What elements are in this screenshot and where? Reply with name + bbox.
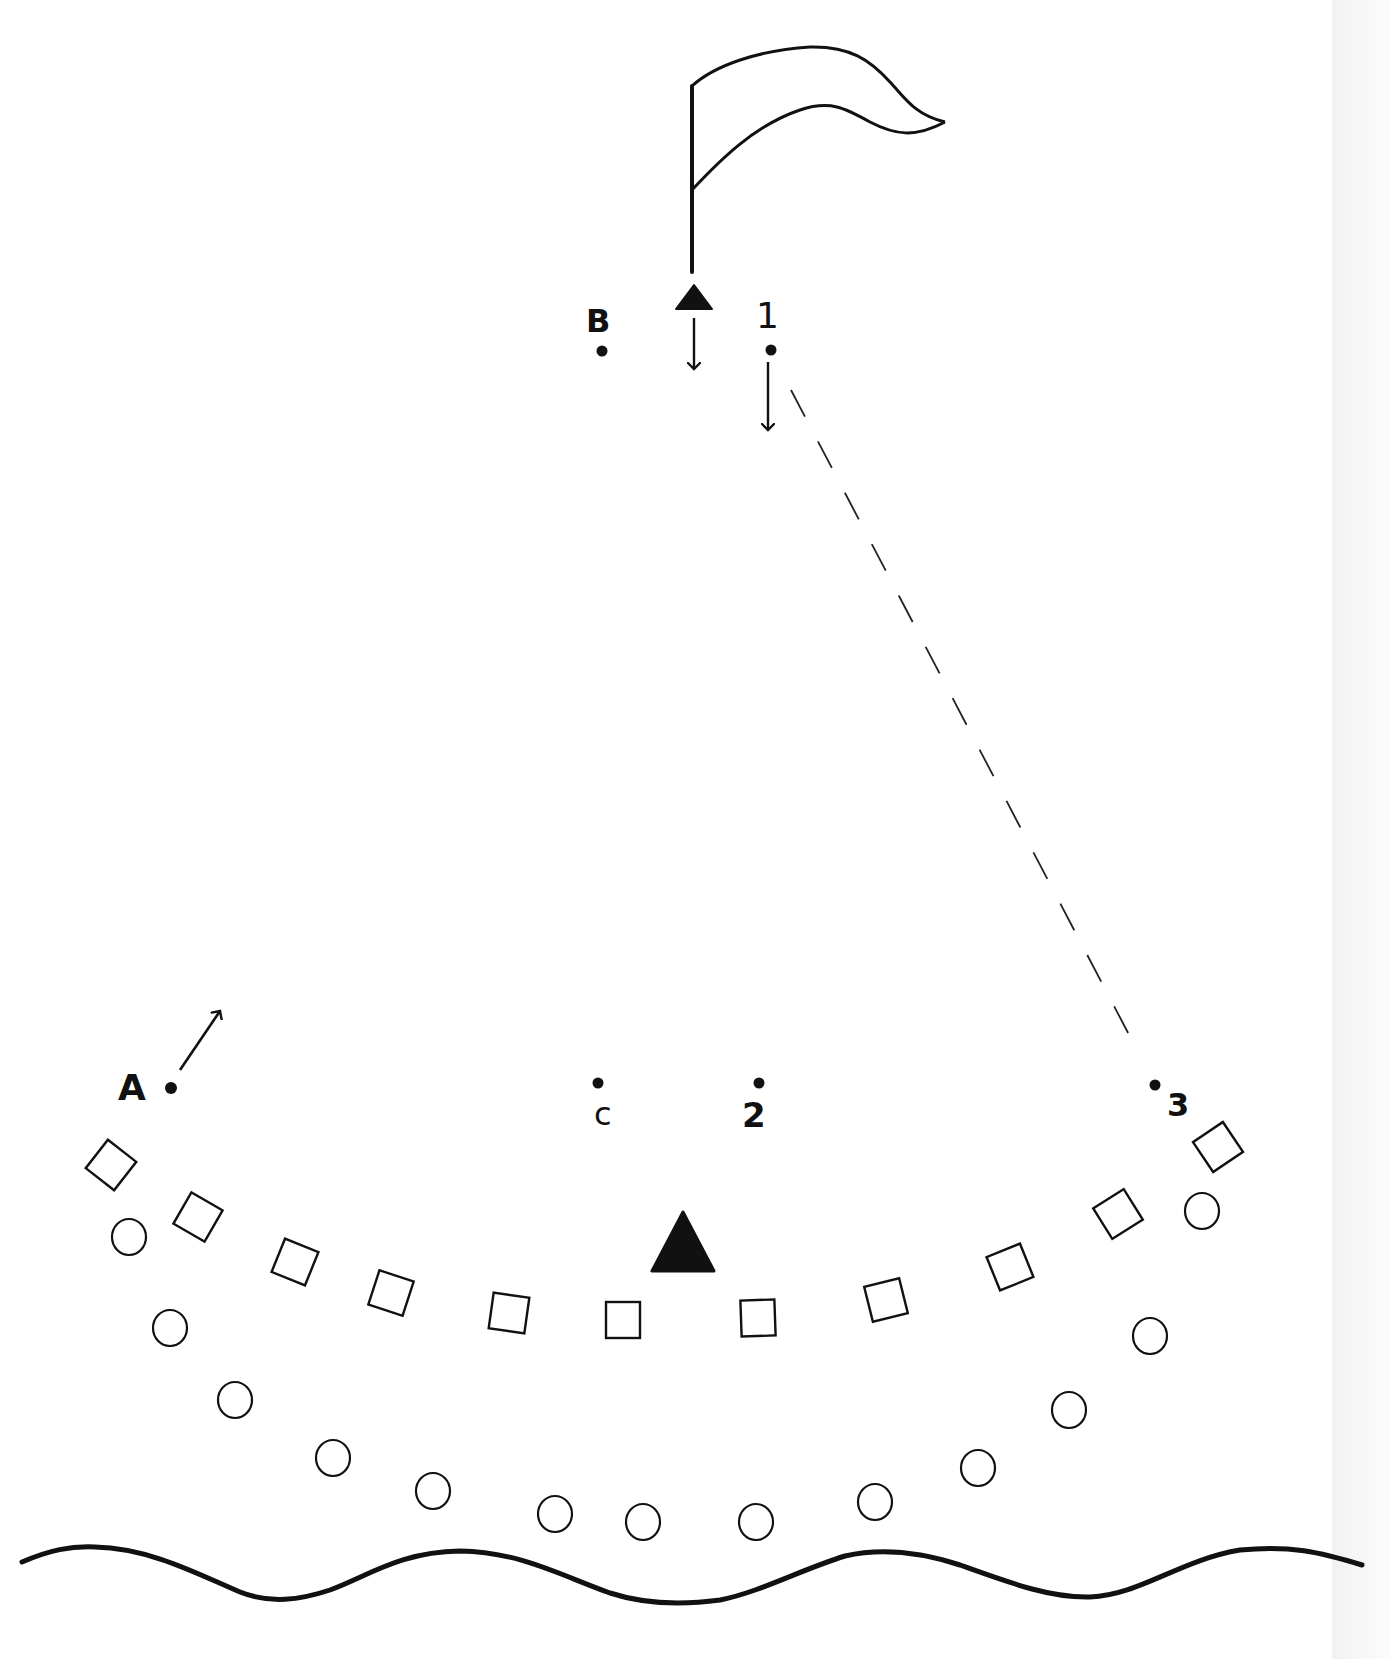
pass-path-dashed [791, 390, 1136, 1048]
square-marker [1093, 1189, 1143, 1239]
circle-marker [538, 1496, 572, 1532]
player-dot-3 [1150, 1080, 1161, 1091]
circle-marker [626, 1504, 660, 1540]
drill-diagram: B 1 A C 2 3 [0, 0, 1390, 1659]
wavy-boundary-line [22, 1547, 1362, 1603]
top-cone-icon [676, 285, 712, 309]
label-1: 1 [756, 295, 779, 336]
player-dot-B [597, 346, 608, 357]
square-marker [173, 1192, 222, 1241]
player-dot-A [165, 1082, 177, 1094]
square-marker [864, 1278, 908, 1322]
square-marker [272, 1239, 319, 1286]
square-marker [987, 1244, 1034, 1291]
label-B: B [586, 302, 610, 340]
circle-marker [1185, 1193, 1219, 1229]
square-marker [1193, 1122, 1243, 1172]
circle-marker [218, 1382, 252, 1418]
square-markers [86, 1122, 1243, 1338]
square-marker [86, 1140, 137, 1191]
center-cone-icon [652, 1212, 714, 1271]
playerA-run-arrow [180, 1011, 220, 1070]
square-marker [740, 1299, 775, 1336]
circle-marker [739, 1504, 773, 1540]
circle-marker [416, 1473, 450, 1509]
label-C: C [594, 1095, 612, 1133]
label-A: A [118, 1067, 146, 1108]
circle-marker [1133, 1318, 1167, 1354]
circle-marker [153, 1310, 187, 1346]
square-marker [606, 1302, 640, 1338]
circle-marker [112, 1219, 146, 1255]
flag-icon [692, 47, 945, 272]
square-marker [489, 1293, 530, 1334]
player-dot-1 [766, 345, 777, 356]
player-dot-C [593, 1078, 604, 1089]
circle-marker [1052, 1392, 1086, 1428]
label-3: 3 [1167, 1086, 1189, 1124]
players [165, 345, 1161, 1095]
circle-marker [316, 1440, 350, 1476]
square-marker [368, 1270, 413, 1315]
label-2: 2 [742, 1095, 766, 1135]
circle-marker [961, 1450, 995, 1486]
player-dot-2 [754, 1078, 765, 1089]
circle-marker [858, 1484, 892, 1520]
